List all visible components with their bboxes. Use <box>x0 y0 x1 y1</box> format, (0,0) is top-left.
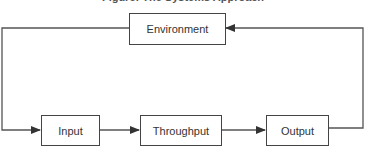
node-environment: Environment <box>129 13 226 45</box>
node-output: Output <box>266 115 329 146</box>
edge-output-to-environment <box>226 28 363 128</box>
node-environment-label: Environment <box>147 23 209 35</box>
node-throughput: Throughput <box>140 115 222 146</box>
node-input: Input <box>41 115 100 146</box>
node-throughput-label: Throughput <box>153 125 209 137</box>
node-output-label: Output <box>281 125 314 137</box>
node-input-label: Input <box>58 125 82 137</box>
